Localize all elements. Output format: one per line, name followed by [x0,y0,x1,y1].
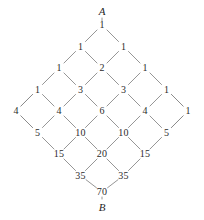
lattice-edge [107,159,119,171]
lattice-edge [64,73,76,85]
lattice-node: 70 [97,187,107,197]
lattice-edge [85,30,97,42]
lattice-edge [64,51,76,63]
lattice-node: 1 [56,63,61,73]
lattice-node: 3 [78,85,83,95]
lattice-node: 1 [121,42,126,52]
lattice-node: 1 [99,20,104,30]
lattice-node: 1 [142,63,147,73]
lattice-edge [107,51,119,63]
lattice-node: 5 [35,128,40,138]
lattice-edge [42,137,54,149]
lattice-edge [85,51,97,63]
lattice-edge [42,73,54,85]
lattice-edge [171,116,183,128]
lattice-edge [21,116,33,128]
lattice-edge [64,116,76,128]
lattice-node: 20 [97,149,107,159]
lattice-edge [128,94,140,106]
lattice-edge [107,30,119,42]
lattice-edge [108,180,118,188]
lattice-edge [150,137,162,149]
lattice-edge [107,137,119,149]
lattice-node: 15 [140,149,150,159]
lattice-node: 4 [56,106,61,116]
lattice-edge [107,116,119,128]
lattice-edge [85,116,97,128]
lattice-edge [42,116,54,128]
lattice-edge [128,159,140,171]
lattice-node: 5 [164,128,169,138]
lattice-node: 10 [118,128,128,138]
lattice-node: 2 [99,63,104,73]
lattice-node: 4 [13,106,18,116]
lattice-edge [42,94,54,106]
lattice-node: 4 [142,106,147,116]
lattice-edge [21,94,33,106]
lattice-edge [85,94,97,106]
lattice-node: 35 [118,171,128,181]
lattice-edge [128,51,140,63]
lattice-edge [150,116,162,128]
lattice-edge [64,159,76,171]
lattice-node: 1 [35,85,40,95]
lattice-node: 35 [75,171,85,181]
lattice-edge [128,73,140,85]
lattice-edge [107,73,119,85]
lattice-edge [128,137,140,149]
lattice-node: 15 [54,149,64,159]
lattice-edge [64,137,76,149]
lattice-edge [171,94,183,106]
lattice-node: 1 [185,106,190,116]
lattice-node: 6 [99,106,104,116]
lattice-edge [85,137,97,149]
lattice-edge [107,94,119,106]
lattice-node: 10 [75,128,85,138]
lattice-diagram: 111121133144641510105152015353570 A B [0,0,204,220]
endpoint-label-a: A [99,6,106,17]
lattice-edge [150,73,162,85]
lattice-edge [85,159,97,171]
lattice-node: 3 [121,85,126,95]
lattice-edge [85,73,97,85]
lattice-edge [150,94,162,106]
endpoint-label-b: B [99,202,106,213]
lattice-edge [86,180,96,188]
lattice-node: 1 [164,85,169,95]
lattice-node: 1 [78,42,83,52]
lattice-edge [128,116,140,128]
lattice-edge [64,94,76,106]
